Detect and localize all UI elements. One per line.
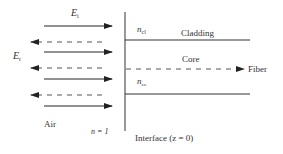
incident-field-label: Ei xyxy=(70,7,79,19)
core-index-label: nco xyxy=(137,76,147,87)
cladding-index-label: ncl xyxy=(137,24,146,35)
incident-arrows xyxy=(44,26,112,106)
core-label: Core xyxy=(182,54,200,64)
air-label: Air xyxy=(44,119,56,129)
cladding-label: Cladding xyxy=(181,28,214,38)
fiber-label: Fiber xyxy=(248,64,267,74)
reflected-arrows xyxy=(31,42,102,95)
fiber-coupling-diagram: Ei Er ncl Cladding Core Fiber nco Air n … xyxy=(0,0,283,154)
interface-label: Interface (z = 0) xyxy=(135,133,193,143)
air-index-label: n = 1 xyxy=(91,127,108,136)
reflected-field-label: Er xyxy=(12,50,21,62)
